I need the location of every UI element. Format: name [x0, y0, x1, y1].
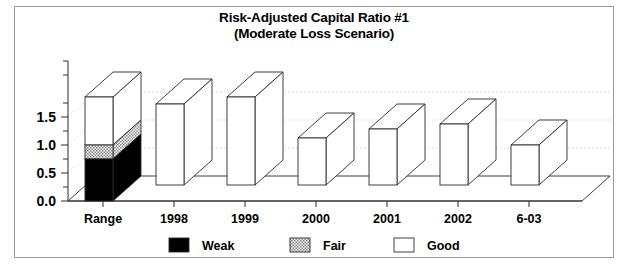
legend-swatch-fair — [290, 238, 310, 252]
y-axis: 0.0 0.5 1.0 1.5 — [37, 61, 68, 209]
bar-6-03[interactable] — [511, 120, 567, 185]
bar-2000[interactable] — [298, 113, 354, 185]
y-tick-label-0: 0.0 — [37, 193, 57, 209]
legend-swatch-good — [394, 238, 414, 252]
x-tick-label-2000: 2000 — [302, 212, 330, 226]
x-tick-label-2002: 2002 — [444, 212, 472, 226]
bar-2002[interactable] — [440, 99, 496, 185]
legend-item-weak[interactable]: Weak — [169, 238, 234, 253]
chart-plot-area: 0.0 0.5 1.0 1.5 — [0, 0, 628, 272]
legend-item-good[interactable]: Good — [394, 238, 460, 253]
y-tick-label-3: 1.5 — [37, 109, 57, 125]
bar-1999[interactable] — [227, 72, 283, 185]
chart-legend: Weak Fair Good — [169, 238, 460, 253]
legend-label-weak: Weak — [202, 239, 234, 253]
legend-label-fair: Fair — [323, 239, 346, 253]
x-tick-label-6-03: 6-03 — [516, 212, 541, 226]
legend-label-good: Good — [427, 239, 460, 253]
x-axis — [68, 201, 582, 207]
x-tick-label-1998: 1998 — [160, 212, 188, 226]
x-tick-label-1999: 1999 — [231, 212, 259, 226]
bar-range[interactable] — [85, 72, 141, 201]
y-tick-label-2: 1.0 — [37, 137, 57, 153]
x-tick-label-2001: 2001 — [373, 212, 401, 226]
x-axis-labels: Range 1998 1999 2000 2001 2002 6-03 — [84, 212, 542, 226]
x-tick-label-range: Range — [84, 212, 122, 226]
legend-item-fair[interactable]: Fair — [290, 238, 346, 253]
bar-1998[interactable] — [156, 79, 212, 185]
bar-2001[interactable] — [369, 104, 425, 185]
legend-swatch-weak — [169, 238, 189, 252]
y-tick-label-1: 0.5 — [37, 165, 57, 181]
